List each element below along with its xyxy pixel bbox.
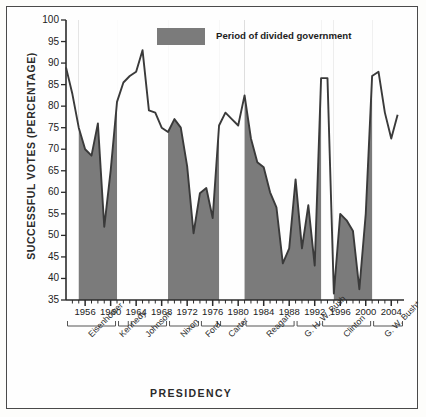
y-tick-label: 60 (33, 186, 59, 197)
y-tick-label: 100 (33, 14, 59, 25)
chart-page: Period of divided government SUCCESSFUL … (0, 0, 426, 417)
y-tick-label: 40 (33, 272, 59, 283)
y-tick-label: 55 (33, 208, 59, 219)
y-tick-label: 90 (33, 57, 59, 68)
y-tick-label: 45 (33, 251, 59, 262)
y-tick-label: 35 (33, 294, 59, 305)
divided-government-chart (0, 0, 426, 417)
x-axis-title: PRESIDENCY (150, 387, 232, 399)
y-tick-label: 75 (33, 122, 59, 133)
y-tick-label: 95 (33, 36, 59, 47)
y-tick-label: 80 (33, 100, 59, 111)
y-tick-label: 65 (33, 165, 59, 176)
shaded-regions-group (79, 20, 372, 300)
legend-label-divided-government: Period of divided government (216, 30, 351, 41)
y-tick-label: 50 (33, 229, 59, 240)
legend-swatch-divided-government (157, 28, 205, 45)
y-tick-label: 70 (33, 143, 59, 154)
y-tick-label: 85 (33, 79, 59, 90)
